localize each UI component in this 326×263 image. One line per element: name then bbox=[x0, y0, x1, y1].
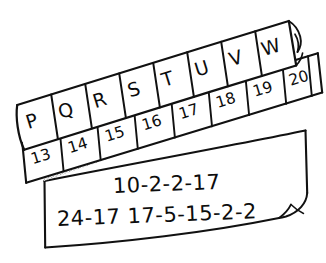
note-line: 10-2-2-17 bbox=[113, 170, 221, 198]
cipher-illustration: 13 14 15 16 17 18 19 bbox=[0, 0, 326, 263]
